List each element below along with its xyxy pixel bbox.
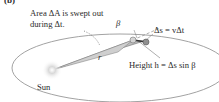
beta-label: β bbox=[116, 19, 120, 28]
area-label-line1: Area ΔA is swept out bbox=[30, 9, 103, 18]
sun bbox=[42, 60, 62, 80]
planet-start bbox=[130, 37, 136, 43]
ds-label: Δs = vΔt bbox=[154, 26, 184, 35]
area-label-line2: during Δt. bbox=[30, 20, 65, 29]
area-leader bbox=[84, 31, 100, 46]
panel-label: (b) bbox=[4, 0, 15, 5]
sun-label: Sun bbox=[37, 83, 50, 92]
height-label: Height h = Δs sin β bbox=[129, 61, 196, 70]
r-label: r bbox=[98, 53, 101, 62]
